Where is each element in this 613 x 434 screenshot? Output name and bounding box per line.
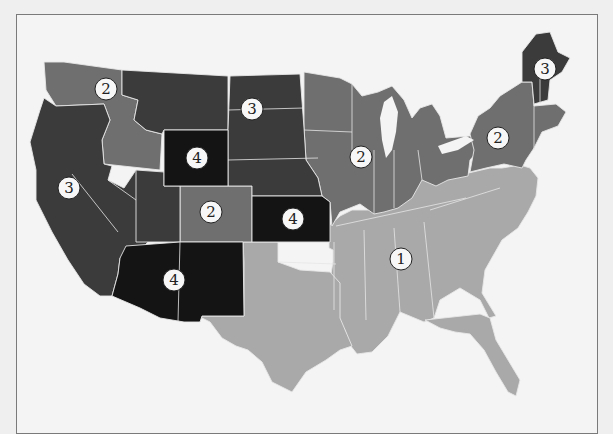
svg-text:3: 3 [540,60,550,78]
svg-text:1: 1 [396,250,406,268]
svg-text:4: 4 [192,149,202,167]
label-co: 2 [200,201,222,223]
label-nd: 3 [241,98,263,120]
label-ks: 4 [282,208,304,230]
svg-text:3: 3 [247,100,257,118]
label-me: 3 [534,58,556,80]
svg-text:4: 4 [169,271,179,289]
label-pa: 2 [487,127,509,149]
label-wy: 4 [186,147,208,169]
svg-text:2: 2 [206,203,216,221]
label-wa: 2 [95,78,117,100]
svg-text:4: 4 [288,210,298,228]
label-ca: 3 [58,177,80,199]
label-se: 1 [390,248,412,270]
svg-text:2: 2 [356,148,366,166]
svg-text:2: 2 [101,80,111,98]
svg-text:2: 2 [493,129,503,147]
svg-text:3: 3 [64,179,74,197]
label-nm: 4 [163,269,185,291]
region-florida[interactable] [425,314,520,396]
label-il: 2 [350,146,372,168]
region-mid-atlantic[interactable] [470,82,566,172]
